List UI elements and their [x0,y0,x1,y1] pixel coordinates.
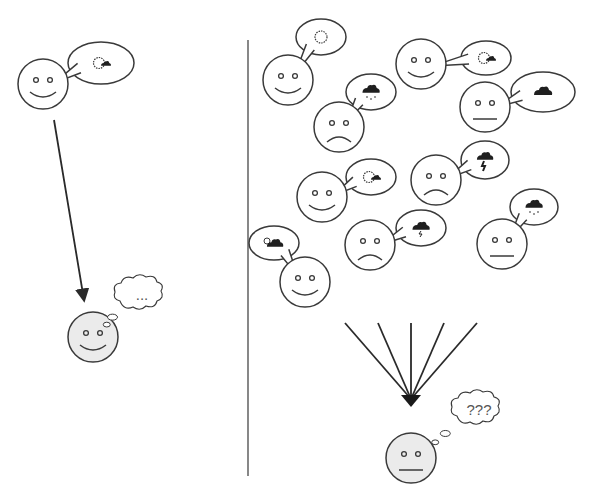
sender-1 [263,19,346,105]
face-outline [345,220,395,270]
face-outline [297,172,347,222]
sender-face [396,39,446,89]
sun-icon [315,31,327,43]
converging-arrows [345,323,477,407]
sender-face [18,59,68,109]
face-outline [477,219,527,269]
sender-4 [460,72,575,132]
thought-bubble: ??? [432,390,500,445]
sender-9 [477,189,558,269]
sender-7 [249,226,330,307]
face-outline [460,82,510,132]
face-outline [386,433,436,483]
face-outline [411,155,461,205]
sender-face [460,82,510,132]
sender-8 [345,210,446,270]
sender-face [280,257,330,307]
sender-face [263,55,313,105]
sender-6 [411,141,509,205]
face-outline [396,39,446,89]
face-outline [314,102,364,152]
sender-face [477,219,527,269]
left-panel: ... [18,42,162,362]
sender-2 [396,39,511,89]
sender-face [345,220,395,270]
face-outline [280,257,330,307]
sender-5 [297,159,396,222]
diagram-canvas: ... ??? [0,0,591,497]
thought-bubble: ... [103,275,162,327]
arrow [54,120,84,300]
thought-text: ??? [466,401,491,418]
face-outline [263,55,313,105]
sender-face [314,102,364,152]
right-panel: ??? [249,19,575,483]
arrowhead-icon [401,395,421,407]
thought-text: ... [136,286,149,303]
face-outline [18,59,68,109]
sender-face [411,155,461,205]
sender-3 [314,74,396,152]
sender-face [297,172,347,222]
receiver-face [386,433,436,483]
